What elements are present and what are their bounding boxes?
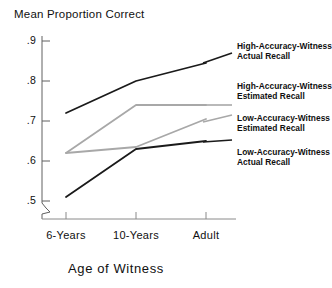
y-axis-ticks — [42, 41, 50, 201]
legend-label-line1: High-Accuracy-Witness — [237, 81, 332, 91]
legend-label-line1: Low-Accuracy-Witness — [237, 147, 330, 157]
x-axis-ticks — [66, 212, 206, 219]
legend-leader-high-actual — [203, 53, 232, 63]
legend-entry-low-accuracy-actual: Low-Accuracy-Witness Actual Recall — [237, 147, 330, 168]
axis-lines — [42, 36, 236, 219]
legend-leader-lines — [203, 53, 232, 142]
x-tick-label-1: 10-Years — [113, 229, 159, 241]
x-tick-label-2: Adult — [193, 229, 220, 241]
legend-entry-low-accuracy-estimated: Low-Accuracy-Witness Estimated Recall — [237, 113, 330, 134]
legend-label-line2: Actual Recall — [237, 51, 332, 61]
legend-label-line2: Estimated Recall — [237, 91, 332, 101]
legend-entry-high-accuracy-actual: High-Accuracy-Witness Actual Recall — [237, 41, 332, 62]
legend-leader-low-estimated — [203, 115, 232, 122]
legend-label-line1: High-Accuracy-Witness — [237, 41, 332, 51]
legend-label-line2: Actual Recall — [237, 157, 330, 167]
legend-leader-low-actual — [203, 140, 232, 142]
legend-label-line1: Low-Accuracy-Witness — [237, 113, 330, 123]
legend-entry-high-accuracy-estimated: High-Accuracy-Witness Estimated Recall — [237, 81, 332, 102]
x-tick-label-0: 6-Years — [46, 229, 86, 241]
series-line-2 — [66, 119, 206, 153]
series-line-1 — [66, 105, 206, 153]
series-line-3 — [66, 141, 206, 197]
y-axis-break-icon — [42, 203, 50, 219]
legend-label-line2: Estimated Recall — [237, 123, 330, 133]
data-series-lines — [66, 63, 206, 197]
x-axis-title: Age of Witness — [0, 261, 232, 276]
